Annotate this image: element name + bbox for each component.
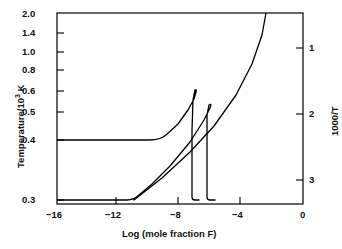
xtick-label-minus4: −4 [232,210,243,220]
series-lower-branch [57,104,215,200]
ytick-label-1-0: 1.0 [22,47,35,57]
left-axis-ticks [57,33,64,200]
series-upper-branch [57,90,199,200]
y2tick-label-1: 1 [309,43,314,53]
ytick-label-2-0: 2.0 [22,9,35,19]
y2tick-label-2: 2 [309,109,314,119]
y-axis-title-exponent: 3 [14,94,21,98]
series-main-diagonal [134,13,266,200]
y-axis-title-text: Temperature/10 [15,98,26,168]
y-axis-title-unit: K [15,85,26,95]
ytick-label-1-4: 1.4 [22,28,35,38]
x-axis-title: Log (mole fraction F) [122,229,216,239]
y-axis-title: Temperature/103 K [14,85,26,168]
plot-frame [57,13,303,204]
ytick-label-0-8: 0.8 [22,65,35,75]
ytick-label-0-3: 0.3 [22,195,35,205]
y2-axis-title: 1000/T [330,106,340,136]
xtick-label-minus12: −12 [105,210,121,220]
xtick-label-minus16: −16 [46,210,62,220]
xtick-label-minus8: −8 [170,210,181,220]
xtick-label-0: 0 [300,210,305,220]
right-axis-ticks [296,48,303,180]
chart-figure: 2.0 1.4 1.0 0.8 0.6 0.5 0.4 0.3 1 2 3 −1… [0,0,342,249]
y2tick-label-3: 3 [309,175,314,185]
